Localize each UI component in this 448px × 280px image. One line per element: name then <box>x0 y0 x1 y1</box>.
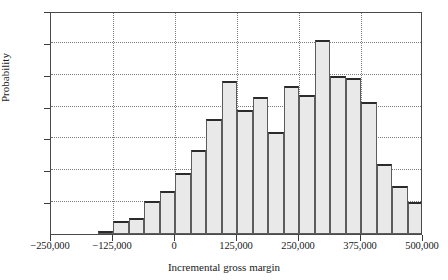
histogram-bar <box>361 102 377 234</box>
histogram-bar <box>315 40 331 234</box>
x-tick-mark <box>112 235 113 241</box>
histogram-bar <box>330 76 346 234</box>
histogram-bar <box>284 86 300 234</box>
histogram-bar <box>160 191 176 234</box>
histogram-bar <box>237 110 253 234</box>
x-tick-mark <box>236 235 237 241</box>
histogram-figure: Probability 0.220.020.040.060.080.100.12… <box>0 0 448 280</box>
histogram-bar <box>98 231 114 234</box>
y-axis-title-text: Probability <box>0 88 11 102</box>
histogram-bar <box>253 97 269 234</box>
x-tick-mark <box>360 235 361 241</box>
histogram-bar <box>222 81 238 234</box>
x-tick-label: 375,000 <box>343 240 376 251</box>
histogram-bar <box>408 202 423 234</box>
x-tick-label: 500,000 <box>405 240 438 251</box>
histogram-bar <box>268 132 284 234</box>
x-axis-title: Incremental gross margin <box>0 261 448 273</box>
histogram-bars <box>51 13 421 234</box>
x-tick-label: −250,000 <box>30 240 69 251</box>
x-tick-mark <box>174 235 175 241</box>
histogram-bar <box>191 150 207 234</box>
x-tick-mark <box>298 235 299 241</box>
x-tick-mark <box>50 235 51 241</box>
histogram-bar <box>175 173 191 234</box>
x-tick-mark <box>422 235 423 241</box>
plot-area <box>50 12 422 235</box>
histogram-bar <box>377 164 393 234</box>
x-tick-label: −125,000 <box>92 240 131 251</box>
histogram-bar <box>144 201 160 234</box>
histogram-bar <box>346 78 362 234</box>
x-axis-title-text: Incremental gross margin <box>168 261 280 273</box>
histogram-bar <box>129 218 145 234</box>
histogram-bar <box>206 119 222 234</box>
x-tick-label: 250,000 <box>281 240 314 251</box>
histogram-bar <box>392 186 408 234</box>
x-tick-label: 125,000 <box>219 240 252 251</box>
y-axis-title: Probability <box>0 81 11 95</box>
histogram-bar <box>299 95 315 234</box>
x-tick-label: 0 <box>171 240 176 251</box>
histogram-bar <box>113 221 129 234</box>
